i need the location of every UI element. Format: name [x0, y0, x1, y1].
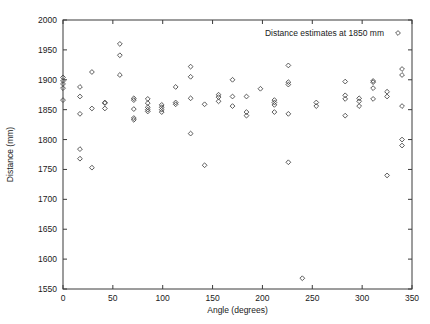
data-point-0-74 — [371, 97, 376, 102]
data-point-0-7 — [78, 111, 83, 116]
data-point-0-76 — [385, 94, 390, 99]
x-axis-title: Angle (degrees) — [207, 305, 268, 315]
plot-canvas: 0501001502002503003501550160016501700175… — [0, 0, 430, 324]
data-point-0-55 — [272, 110, 277, 115]
y-tick-label-6: 1850 — [38, 105, 57, 115]
data-point-0-82 — [400, 143, 405, 148]
y-tick-label-4: 1750 — [38, 164, 57, 174]
data-point-0-33 — [173, 85, 178, 90]
y-tick-label-8: 1950 — [38, 45, 57, 55]
data-point-0-37 — [188, 74, 193, 79]
x-tick-label-6: 300 — [355, 293, 369, 303]
x-tick-label-7: 350 — [405, 293, 419, 303]
x-tick-label-4: 200 — [255, 293, 269, 303]
y-tick-label-5: 1800 — [38, 135, 57, 145]
y-axis-title: Distance (mm) — [5, 127, 15, 182]
x-tick-label-2: 100 — [156, 293, 170, 303]
legend-marker-diamond — [396, 31, 401, 36]
data-point-0-80 — [400, 104, 405, 109]
data-point-0-21 — [131, 107, 136, 112]
data-point-0-75 — [385, 89, 390, 94]
data-point-0-9 — [78, 156, 83, 161]
data-point-0-56 — [286, 63, 291, 68]
data-point-0-73 — [371, 86, 376, 91]
data-point-0-45 — [230, 77, 235, 82]
data-point-0-40 — [202, 102, 207, 107]
x-tick-label-5: 250 — [305, 293, 319, 303]
data-point-0-77 — [385, 173, 390, 178]
data-point-0-5 — [78, 85, 83, 90]
data-point-0-67 — [343, 113, 348, 118]
data-point-0-81 — [400, 137, 405, 142]
y-tick-label-2: 1650 — [38, 224, 57, 234]
plot-frame — [63, 20, 412, 289]
data-point-0-61 — [300, 276, 305, 281]
data-point-0-18 — [117, 73, 122, 78]
data-points-group — [61, 42, 405, 281]
data-point-0-70 — [357, 104, 362, 109]
data-point-0-11 — [90, 106, 95, 111]
data-point-0-60 — [286, 160, 291, 165]
y-tick-label-3: 1700 — [38, 194, 57, 204]
y-tick-label-9: 2000 — [38, 15, 57, 25]
y-tick-label-0: 1550 — [38, 284, 57, 294]
data-point-0-79 — [400, 73, 405, 78]
data-point-0-10 — [90, 70, 95, 75]
data-point-0-17 — [117, 53, 122, 58]
legend-label: Distance estimates at 1850 mm — [265, 28, 384, 38]
data-point-0-78 — [400, 67, 405, 72]
data-point-0-48 — [244, 94, 249, 99]
data-point-0-47 — [230, 104, 235, 109]
data-point-0-64 — [343, 79, 348, 84]
legend: Distance estimates at 1850 mm — [265, 28, 400, 38]
data-point-0-8 — [78, 147, 83, 152]
data-point-0-36 — [188, 64, 193, 69]
data-point-0-12 — [90, 165, 95, 170]
data-point-0-59 — [286, 111, 291, 116]
data-point-0-6 — [78, 94, 83, 99]
y-tick-label-1: 1600 — [38, 254, 57, 264]
data-point-0-46 — [230, 94, 235, 99]
data-point-0-38 — [188, 96, 193, 101]
scatter-plot-figure: 0501001502002503003501550160016501700175… — [0, 0, 430, 324]
data-point-0-39 — [188, 131, 193, 136]
data-point-0-16 — [117, 42, 122, 47]
x-tick-label-0: 0 — [61, 293, 66, 303]
data-point-0-15 — [102, 106, 107, 111]
x-tick-label-3: 150 — [205, 293, 219, 303]
data-point-0-51 — [258, 86, 263, 91]
data-point-0-41 — [202, 163, 207, 168]
y-tick-label-7: 1900 — [38, 75, 57, 85]
x-tick-label-1: 50 — [108, 293, 118, 303]
